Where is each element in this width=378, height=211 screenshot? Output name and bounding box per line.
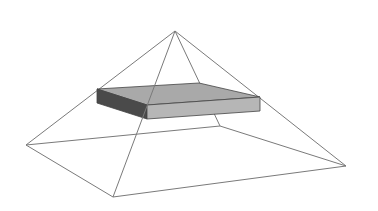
base-edge-back-right [220, 126, 346, 166]
base-edge-front-right [113, 166, 346, 197]
pyramid-diagram [0, 0, 378, 211]
base-edge-left-back [26, 126, 220, 145]
gray-slab [97, 83, 260, 119]
base-edge-left-front [26, 145, 113, 197]
